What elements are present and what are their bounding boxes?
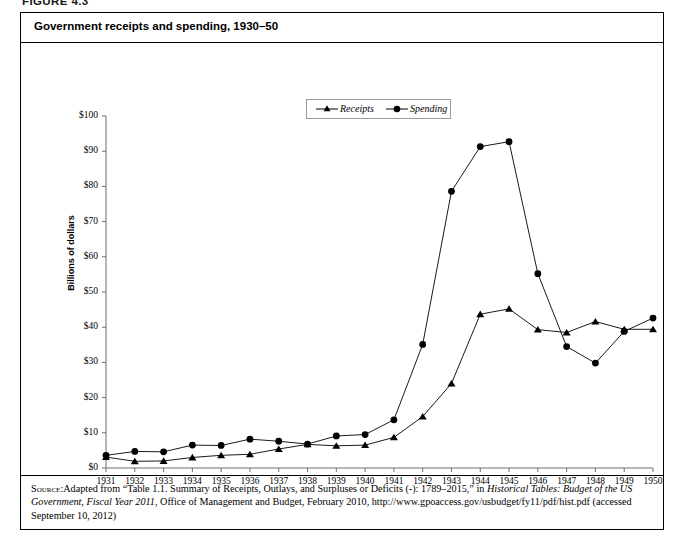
figure-root: FIGURE 4.3 Government receipts and spend… [0,0,685,540]
plot-area: Billions of dollars Receipts Spending $0… [21,43,663,475]
y-axis-tick-label: $80 [62,180,98,190]
source-text-part-1: Adapted from “Table 1.1. Summary of Rece… [63,483,487,494]
figure-number-caption: FIGURE 4.3 [22,0,89,7]
figure-title-band: Government receipts and spending, 1930–5… [21,13,663,43]
chart-title: Government receipts and spending, 1930–5… [34,20,278,32]
y-axis-tick-label: $30 [62,356,98,366]
legend-label-spending: Spending [410,103,447,114]
y-axis-tick-label: $70 [62,216,98,226]
y-axis-tick-label: $50 [62,286,98,296]
y-axis-tick-label: $60 [62,251,98,261]
y-axis-tick-label: $90 [62,145,98,155]
y-axis-tick-label: $100 [62,110,98,120]
source-note: Source:Adapted from “Table 1.1. Summary … [31,482,653,522]
legend-label-receipts: Receipts [340,103,374,114]
y-axis-tick-label: $40 [62,321,98,331]
y-axis-tick-label: $20 [62,392,98,402]
chart-legend: Receipts Spending [306,99,451,119]
legend-entry-receipts: Receipts [316,103,374,117]
legend-entry-spending: Spending [386,103,447,117]
triangle-marker-icon [316,104,338,114]
y-axis-tick-label: $10 [62,427,98,437]
y-axis-tick-label: $0 [62,462,98,472]
source-label: Source: [31,483,63,494]
source-band: Source:Adapted from “Table 1.1. Summary … [21,475,663,529]
circle-marker-icon [386,104,408,114]
figure-box: Government receipts and spending, 1930–5… [20,12,664,530]
